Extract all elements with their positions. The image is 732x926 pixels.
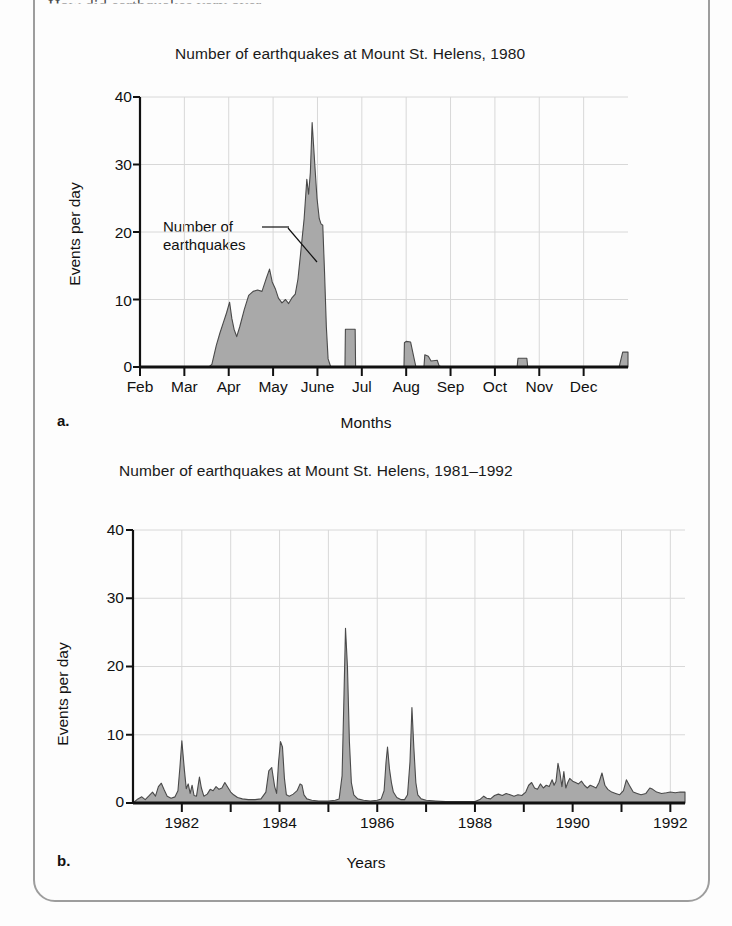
- panel-a-letter: a.: [57, 412, 70, 429]
- chart-b-xtick-3: 1988: [435, 814, 515, 832]
- chart-b-xtick-2: 1986: [337, 814, 417, 832]
- chart-b-xtick-4: 1990: [533, 814, 613, 832]
- chart-a-xlabel: Months: [0, 414, 732, 432]
- chart-b-xtick-5: 1992: [630, 814, 710, 832]
- panel-b: Number of earthquakes at Mount St. Helen…: [0, 440, 732, 926]
- panel-a: Number of earthquakes at Mount St. Helen…: [0, 0, 732, 440]
- chart-a-xtick-10: Dec: [544, 378, 624, 396]
- chart-b-xtick-0: 1982: [142, 814, 222, 832]
- chart-b-xtick-1: 1984: [240, 814, 320, 832]
- chart-a-canvas: [0, 0, 732, 440]
- figure-page: How did earthquakes vary over Number of …: [0, 0, 732, 926]
- chart-b-xlabel: Years: [0, 854, 732, 872]
- panel-b-letter: b.: [57, 852, 70, 869]
